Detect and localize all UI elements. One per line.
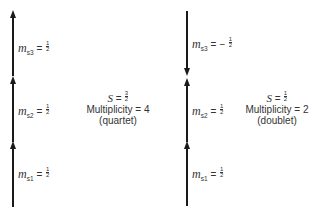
doublet-ms2-label: ms2=12 — [192, 104, 224, 121]
doublet-ms1-label: ms1=12 — [192, 167, 224, 184]
quartet-total-spin: S = 32 — [66, 91, 170, 104]
quartet-spin-arrow-2-up-icon — [10, 76, 16, 142]
quartet-multiplicity: Multiplicity = 4 — [66, 104, 170, 115]
doublet-spin-arrow-2-up-icon — [184, 78, 190, 142]
spin-multiplicity-diagram: ms3=12 ms2=12 ms1=12 S = 32 Multiplicity… — [0, 0, 318, 212]
doublet-summary: S = 12 Multiplicity = 2 (doublet) — [236, 91, 318, 126]
doublet-spin-arrow-3-down-icon — [184, 11, 190, 76]
doublet-total-spin: S = 12 — [236, 91, 318, 104]
quartet-spin-arrow-3-up-icon — [10, 10, 16, 76]
quartet-ms3-label: ms3=12 — [18, 41, 50, 58]
quartet-ms1-label: ms1=12 — [18, 167, 50, 184]
quartet-state-name: (quartet) — [66, 115, 170, 126]
doublet-ms3-label: ms3=−12 — [192, 37, 233, 54]
quartet-ms2-label: ms2=12 — [18, 104, 50, 121]
doublet-multiplicity: Multiplicity = 2 — [236, 104, 318, 115]
quartet-summary: S = 32 Multiplicity = 4 (quartet) — [66, 91, 170, 126]
doublet-spin-arrow-1-up-icon — [184, 141, 190, 206]
doublet-state-name: (doublet) — [236, 115, 318, 126]
quartet-spin-arrow-1-up-icon — [10, 141, 16, 207]
